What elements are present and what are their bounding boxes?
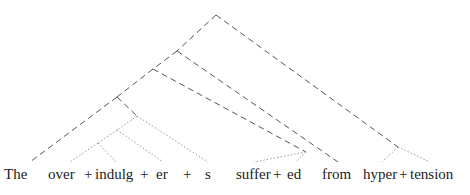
token-plus: + [273, 165, 281, 183]
edge-f-indulg [98, 143, 116, 162]
token-plus: + [183, 165, 191, 183]
token-plus: + [140, 165, 148, 183]
parse-tree-diagram: The over + indulg + er + s suffer + ed f… [0, 0, 470, 195]
edge-b-left [117, 69, 153, 97]
token-hyper: hyper [363, 165, 397, 183]
edge-noun-left [117, 116, 137, 130]
token-ed: ed [287, 165, 301, 183]
edge-root-hypertension [216, 15, 398, 147]
edge-hyper [382, 147, 398, 162]
edge-a-from [177, 51, 338, 162]
token-the: The [4, 165, 27, 183]
edge-b-suffered [153, 69, 306, 152]
edge-a-left [153, 51, 177, 69]
edge-root-left [177, 15, 216, 51]
edge-f-over [70, 143, 98, 162]
token-s: s [205, 165, 211, 183]
edge-c-the [30, 97, 117, 162]
edge-c-noun [117, 97, 137, 116]
edge-e-left [98, 130, 117, 143]
edge-e-er [117, 130, 163, 162]
edge-ed [296, 152, 306, 162]
token-suffer: suffer [236, 165, 271, 183]
token-tension: tension [410, 165, 453, 183]
token-er: er [156, 165, 168, 183]
edge-noun-s [137, 116, 208, 162]
token-over: over [48, 165, 75, 183]
token-indulg: indulg [95, 165, 133, 183]
token-plus: + [399, 165, 407, 183]
edge-tension [398, 147, 430, 162]
token-from: from [322, 165, 351, 183]
token-plus: + [84, 165, 92, 183]
